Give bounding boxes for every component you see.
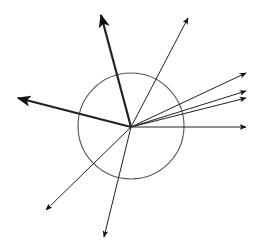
vector-group xyxy=(18,15,246,237)
vector-arrow-up-right xyxy=(131,18,188,127)
vector-arrow-right-2 xyxy=(131,91,246,127)
vector-arrow-down xyxy=(104,127,131,237)
vector-diagram xyxy=(0,0,260,246)
vector-arrow-left-thick xyxy=(18,98,131,127)
vector-arrow-down-left xyxy=(46,127,131,210)
vector-arrow-up-thick xyxy=(101,15,131,127)
vector-arrow-right-1 xyxy=(131,73,246,127)
vector-arrow-right-3 xyxy=(131,98,246,127)
